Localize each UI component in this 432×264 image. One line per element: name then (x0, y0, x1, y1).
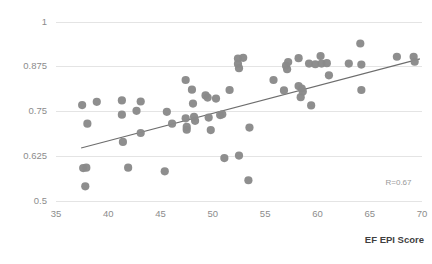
data-point (137, 97, 145, 105)
data-point (239, 54, 247, 62)
data-point (182, 114, 190, 122)
data-point (284, 58, 292, 66)
data-point (183, 123, 191, 131)
data-point (124, 164, 132, 172)
data-point (182, 76, 190, 84)
correlation-annotation: R=0.67 (386, 178, 413, 187)
trend-line-group (81, 59, 420, 148)
data-point (245, 124, 253, 132)
data-point (119, 138, 127, 146)
data-point (82, 164, 90, 172)
data-point (323, 59, 331, 67)
data-point (218, 110, 226, 118)
data-point (225, 86, 233, 94)
data-point (345, 59, 353, 67)
data-point (411, 58, 419, 66)
x-axis-tick-label: 70 (417, 208, 428, 219)
y-axis-tick-label: 0.625 (23, 150, 47, 161)
data-point (207, 126, 215, 134)
data-point (356, 39, 364, 47)
x-axis-title: EF EPI Score (365, 234, 424, 245)
data-point (235, 64, 243, 72)
x-axis-tick-label: 45 (155, 208, 166, 219)
data-point (393, 53, 401, 61)
data-point (244, 176, 252, 184)
y-axis-tick-label: 0.5 (34, 195, 47, 206)
data-point (118, 111, 126, 119)
data-point (83, 120, 91, 128)
data-point (212, 95, 220, 103)
data-point (205, 113, 213, 121)
data-point (283, 65, 291, 73)
y-axis-tick-label: 1 (42, 16, 47, 27)
gridlines (56, 22, 422, 201)
data-point (357, 86, 365, 94)
data-point (299, 87, 307, 95)
y-axis-tick-label: 0.875 (23, 60, 47, 71)
chart-canvas: 0.50.6250.750.8751 3540455055606570 R=0.… (0, 0, 432, 264)
y-axis-tick-label: 0.75 (29, 105, 48, 116)
data-point (295, 54, 303, 62)
x-axis-tick-label: 55 (260, 208, 271, 219)
data-point (307, 101, 315, 109)
trend-line (81, 59, 420, 148)
data-point (132, 107, 140, 115)
scatter-chart: 0.50.6250.750.8751 3540455055606570 R=0.… (0, 0, 432, 264)
data-point (118, 96, 126, 104)
data-point (81, 182, 89, 190)
data-points (78, 39, 419, 190)
y-axis-tick-labels: 0.50.6250.750.8751 (23, 16, 47, 206)
data-point (161, 167, 169, 175)
data-point (137, 129, 145, 137)
data-point (78, 101, 86, 109)
data-point (204, 93, 212, 101)
data-point (188, 86, 196, 94)
data-point (163, 108, 171, 116)
data-point (168, 120, 176, 128)
x-axis-tick-label: 40 (103, 208, 114, 219)
x-axis-tick-label: 60 (312, 208, 323, 219)
data-point (325, 71, 333, 79)
x-axis-tick-label: 50 (208, 208, 219, 219)
data-point (235, 151, 243, 159)
data-point (191, 117, 199, 125)
data-point (220, 154, 228, 162)
data-point (280, 86, 288, 94)
data-point (189, 100, 197, 108)
data-point (357, 61, 365, 69)
data-point (269, 76, 277, 84)
data-point (316, 52, 324, 60)
data-point (93, 98, 101, 106)
x-axis-tick-labels: 3540455055606570 (51, 208, 428, 219)
x-axis-tick-label: 65 (364, 208, 375, 219)
x-axis-tick-label: 35 (51, 208, 62, 219)
